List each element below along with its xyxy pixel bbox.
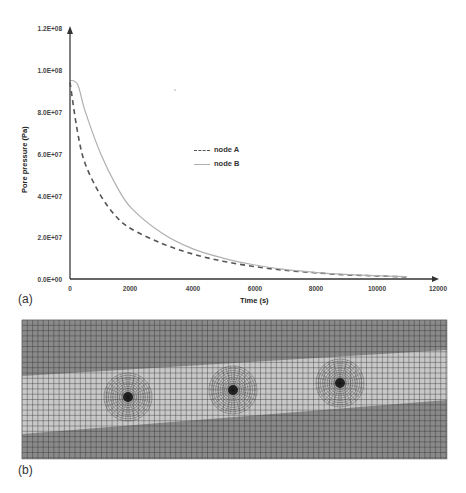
x-tick: 12000 — [418, 285, 458, 292]
y-axis-arrow-icon — [67, 26, 73, 34]
x-tick: 4000 — [173, 285, 213, 292]
stray-dot — [174, 89, 175, 90]
y-tick: 8.0E+07 — [12, 109, 62, 116]
x-axis-label: Time (s) — [240, 296, 269, 305]
x-axis-arrow-icon — [432, 276, 439, 282]
x-tick: 2000 — [110, 285, 150, 292]
y-tick: 2.0E+07 — [12, 234, 62, 241]
x-tick: 0 — [50, 285, 90, 292]
legend-item-node-a: node A — [194, 145, 254, 157]
legend-label: node B — [214, 159, 239, 168]
series-line-node-a — [70, 82, 406, 277]
legend-label: node A — [214, 145, 239, 154]
dashed-line-swatch-icon — [194, 150, 210, 151]
solid-line-swatch-icon — [194, 164, 210, 165]
y-tick: 1.0E+08 — [12, 67, 62, 74]
y-tick: 1.2E+08 — [12, 25, 62, 32]
panel-label-b: (b) — [18, 463, 33, 477]
panel-label-a: (a) — [18, 292, 33, 306]
x-tick: 6000 — [235, 285, 275, 292]
y-tick: 0.0E+00 — [12, 276, 62, 283]
x-tick: 8000 — [296, 285, 336, 292]
y-tick: 4.0E+07 — [12, 193, 62, 200]
x-tick: 10000 — [357, 285, 397, 292]
series-line-node-b — [70, 80, 406, 276]
legend-item-node-b: node B — [194, 159, 254, 171]
y-axis-label: Pore pressure (Pa) — [20, 126, 29, 193]
